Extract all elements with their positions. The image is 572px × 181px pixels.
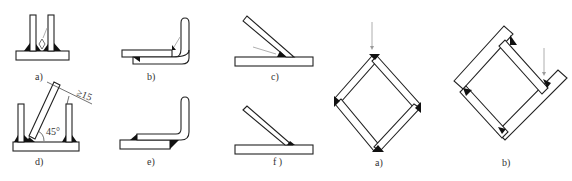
angle-arc xyxy=(38,131,44,141)
base-plate xyxy=(235,145,313,154)
panel-d-inclined-between-uprights: 45° ≥15 d) xyxy=(13,82,94,168)
base-plate xyxy=(120,140,170,149)
panel-label: f ) xyxy=(273,156,282,168)
upright-plate-left xyxy=(18,104,24,142)
pointer-arrow xyxy=(253,47,276,54)
upright-plate-right xyxy=(48,15,54,51)
extension-line xyxy=(67,96,69,104)
upright-plate-right xyxy=(66,104,72,142)
fillet-weld xyxy=(62,135,66,142)
arrow-head-icon xyxy=(370,46,374,50)
base-plate xyxy=(13,142,79,151)
panel-b2-extended-frame: b) xyxy=(454,26,567,169)
upright-plate-left xyxy=(30,15,36,51)
panel-label: e) xyxy=(147,156,155,168)
panel-f-inclined-tee-joint: f ) xyxy=(235,106,313,168)
panel-e-bent-lap-joint: e) xyxy=(120,97,189,168)
short-plate xyxy=(499,40,548,94)
fillet-weld xyxy=(130,134,137,140)
arrow-head-icon xyxy=(542,72,546,76)
fillet-weld xyxy=(172,45,176,50)
panel-label: c) xyxy=(271,71,279,83)
fillet-weld xyxy=(170,140,179,149)
panel-label: d) xyxy=(35,156,43,168)
fillet-weld xyxy=(14,135,18,142)
fillet-weld xyxy=(54,43,61,51)
long-plate xyxy=(454,26,513,89)
inaccessible-weld-marker xyxy=(39,39,45,49)
weld-joint-diagram: a) b) c) 45° ≥15 d) xyxy=(0,0,572,181)
panel-b-bent-lap-joint: b) xyxy=(122,18,189,83)
angle-label: 45° xyxy=(46,126,60,137)
panel-a2-diamond-frame: a) xyxy=(334,22,421,169)
inclined-plate xyxy=(243,106,292,145)
inclined-plate xyxy=(243,16,294,57)
flat-plate xyxy=(122,50,172,57)
frame-member xyxy=(335,56,377,103)
corner-weld xyxy=(510,35,517,45)
panel-label: a) xyxy=(375,157,383,169)
pointer-arrow xyxy=(43,28,47,38)
frame-member xyxy=(374,104,420,151)
base-plate xyxy=(16,51,69,60)
panel-label: b) xyxy=(502,157,510,169)
pointer-arrow xyxy=(174,37,180,47)
bent-plate xyxy=(137,97,189,140)
frame-member xyxy=(372,56,420,109)
base-plate xyxy=(235,57,313,66)
dimension-label: ≥15 xyxy=(75,87,93,103)
panel-c-inclined-tee-joint: c) xyxy=(235,16,313,83)
fillet-weld xyxy=(72,135,77,142)
panel-label: a) xyxy=(35,71,43,83)
panel-label: b) xyxy=(147,71,155,83)
fillet-weld xyxy=(24,43,30,51)
panel-a-double-tee-joint: a) xyxy=(16,15,69,83)
frame-member xyxy=(335,99,380,151)
